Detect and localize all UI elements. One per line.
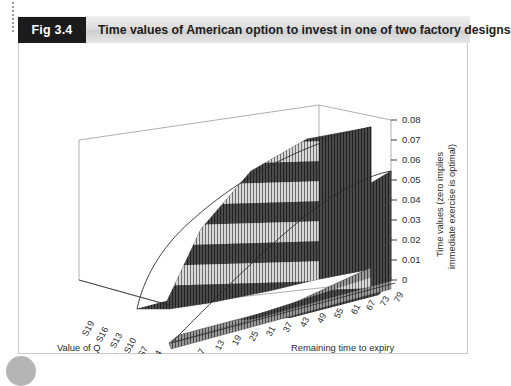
figure-number-badge: Fig 3.4 [18,17,86,43]
x-tick-4: 25 [247,329,261,343]
y-axis-title-line1: Value of Q [57,342,101,353]
x-tick-11: 67 [364,298,378,312]
figure-header: Fig 3.4 Time values of American option t… [18,16,470,43]
y-tick-0: S19 [80,319,96,338]
x-tick-6: 37 [281,320,295,334]
z-axis-ticklabels: 0 0.01 0.02 0.03 0.04 0.05 0.06 0.07 0.0… [402,114,421,285]
z-tick-6: 0.06 [402,154,421,165]
y-tick-2: S13 [108,331,124,350]
corner-circle-decoration [6,356,36,386]
surface-chart-svg: 0 0.01 0.02 0.03 0.04 0.05 0.06 0.07 0.0… [19,43,469,354]
surface-a-cut-face [319,127,371,279]
z-tick-2: 0.02 [402,234,421,245]
z-axis-title: Time values (zero implies immediate exer… [435,144,457,269]
z-axis: 0 0.01 0.02 0.03 0.04 0.05 0.06 0.07 0.0… [391,114,457,285]
y-tick-4: S7 [136,345,150,354]
x-tick-3: 19 [230,333,244,347]
y-tick-3: S10 [122,336,138,354]
z-axis-title-line2: immediate exercise is optimal) [447,144,457,269]
x-tick-1: 7 [196,347,207,354]
z-tick-7: 0.07 [402,134,421,145]
x-tick-9: 55 [332,306,346,320]
dotted-rule-decoration [12,2,14,32]
z-tick-8: 0.08 [402,114,421,125]
x-tick-0: 1 [178,353,189,354]
figure-container: Fig 3.4 Time values of American option t… [18,16,470,355]
x-axis-title-line1: Remaining time to expiry [291,342,394,353]
x-tick-13: 79 [392,290,406,304]
x-tick-2: 13 [213,338,227,352]
z-axis-title-line1: Time values (zero implies [435,152,445,257]
y-axis-line [79,280,169,305]
x-axis-title: Remaining time to expiry (increasing tow… [267,342,433,354]
x-tick-7: 43 [298,315,312,329]
z-tick-4: 0.04 [402,194,421,205]
x-tick-5: 31 [264,324,278,338]
z-tick-1: 0.01 [402,254,421,265]
y-axis-title: Value of Q (increasing to left) [37,342,112,354]
y-axis: S19 S16 S13 S10 S7 S4 S1 D E A [37,280,178,354]
figure-body: 0 0.01 0.02 0.03 0.04 0.05 0.06 0.07 0.0… [18,43,468,354]
surface-b-cut-face [371,171,391,287]
z-tick-3: 0.03 [402,214,421,225]
z-tick-5: 0.05 [402,174,421,185]
x-tick-12: 73 [378,294,392,308]
x-tick-10: 61 [349,302,363,316]
y-tick-6: S1 [164,353,178,354]
y-tick-5: S4 [150,349,164,354]
surface-chart: 0 0.01 0.02 0.03 0.04 0.05 0.06 0.07 0.0… [19,43,469,354]
y-tick-7: D [110,351,122,354]
x-tick-8: 49 [315,311,329,325]
z-tick-0: 0 [402,274,407,285]
figure-title: Time values of American option to invest… [98,17,511,43]
